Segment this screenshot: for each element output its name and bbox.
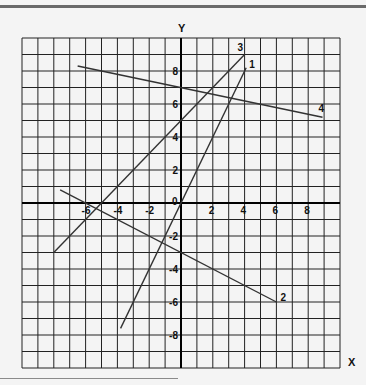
y-tick-label: -4 [169,264,178,275]
y-tick-label: 2 [172,165,178,176]
series-label-3: 3 [238,42,244,53]
bottom-rule [0,378,178,379]
x-tick-label: 6 [272,205,278,216]
series-line-1 [121,68,247,329]
y-tick-label: 4 [172,132,178,143]
series-lines [54,55,323,329]
y-tick-label: 6 [172,99,178,110]
series-label-1: 1 [249,59,255,70]
x-tick-label: -4 [113,205,122,216]
series-label-2: 2 [280,292,286,303]
x-tick-label: 4 [241,205,247,216]
y-axis-title: Y [178,22,186,34]
y-tick-label: 8 [172,66,178,77]
y-tick-label: -6 [169,297,178,308]
y-tick-label: -8 [169,330,178,341]
series-line-4 [78,66,323,117]
x-tick-label: -2 [145,205,154,216]
series-label-4: 4 [319,103,325,114]
x-tick-label: -6 [82,205,91,216]
x-tick-label: 8 [304,205,310,216]
coordinate-plane: YX-6-4-224688642-2-4-6-801234 [0,0,366,385]
y-tick-label: -2 [169,231,178,242]
tick-labels: YX-6-4-224688642-2-4-6-801234 [82,22,356,368]
x-axis-title: X [348,356,356,368]
origin-label: 0 [172,196,178,207]
x-tick-label: 2 [209,205,215,216]
